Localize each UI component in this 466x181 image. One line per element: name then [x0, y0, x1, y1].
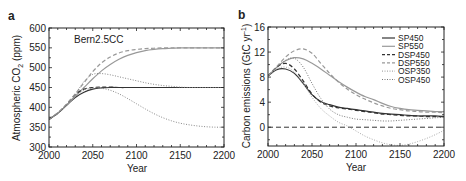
panel-a-x-axis-label: Year: [127, 163, 148, 174]
y-tick-label: 12: [254, 47, 266, 58]
y-tick-label: 550: [29, 42, 46, 53]
y-tick-label: 4: [259, 97, 265, 108]
y-tick-label: 16: [254, 22, 266, 33]
series-osp350: [49, 88, 224, 127]
series-dsp450: [49, 87, 224, 119]
y-tick-label: 8: [259, 72, 265, 83]
panel-b-plot-area: 200020502100215022000481216: [254, 22, 456, 161]
x-tick-label: 2150: [389, 149, 412, 160]
panel-b-x-axis-label: Year: [346, 162, 367, 173]
x-tick-label: 2050: [82, 150, 105, 161]
x-tick-label: 2050: [301, 149, 324, 160]
y-tick-label: 350: [29, 122, 46, 133]
x-tick-label: 2100: [125, 150, 148, 161]
y-tick-label: 500: [29, 62, 46, 73]
panel-b-emissions-chart: b 200020502100215022000481216 SP450SP550…: [238, 8, 456, 173]
x-tick-label: 2200: [213, 150, 236, 161]
panel-a-co2-chart: a Bern2.5CC 2000205021002150220030035040…: [8, 9, 236, 174]
y-tick-label: 0: [259, 122, 265, 133]
panel-a-plot-area: 2000205021002150220030035040045050055060…: [29, 23, 235, 162]
x-tick-label: 2100: [345, 149, 368, 160]
panel-b-y-axis-label: Carbon emissions (GtC yr-1): [240, 24, 252, 149]
x-tick-label: 2150: [169, 150, 192, 161]
series-sp550: [49, 48, 224, 119]
panel-a-label: a: [8, 9, 15, 23]
panel-b-legend: SP450SP550DSP450DSP550OSP350OSP450: [382, 33, 430, 85]
y-tick-label: 300: [29, 142, 46, 153]
x-tick-label: 2200: [433, 149, 456, 160]
model-annotation: Bern2.5CC: [74, 34, 123, 45]
x-tick-label: 2000: [257, 149, 280, 160]
panel-a-y-axis-label: Atmospheric CO2 (ppm): [11, 35, 24, 141]
series-dsp550: [49, 48, 224, 119]
legend-label: OSP450: [398, 75, 430, 85]
panel-b-label: b: [238, 8, 245, 22]
y-tick-label: 400: [29, 102, 46, 113]
y-tick-label: 600: [29, 23, 46, 34]
figure: a Bern2.5CC 2000205021002150220030035040…: [0, 0, 466, 181]
y-tick-label: 450: [29, 82, 46, 93]
